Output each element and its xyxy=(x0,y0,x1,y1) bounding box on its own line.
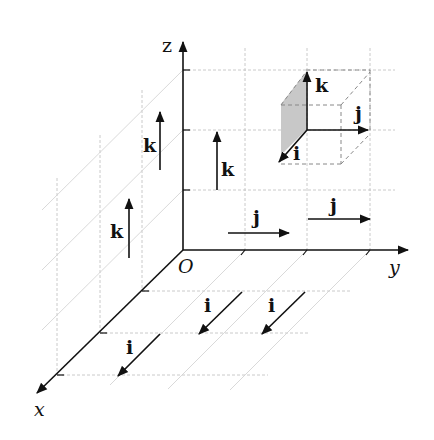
x-axis xyxy=(37,250,183,393)
cube-k-label: k xyxy=(315,76,328,95)
k-label-2: k xyxy=(221,160,234,179)
cube-j-label: j xyxy=(355,104,362,123)
cube-i-label: i xyxy=(293,144,300,163)
origin-label: O xyxy=(178,257,194,276)
y-axis-label: y xyxy=(389,258,400,277)
i-vector-3 xyxy=(118,334,160,376)
diagonal-gridlines xyxy=(42,70,370,390)
gridlines xyxy=(57,48,395,375)
axes-drawing xyxy=(0,0,434,440)
diagram-canvas: z y x O k k k j j i i i k j i xyxy=(0,0,434,440)
i-label-2: i xyxy=(268,296,275,315)
j-label-1: j xyxy=(253,208,260,227)
k-label-1: k xyxy=(143,136,156,155)
x-axis-label: x xyxy=(34,400,45,419)
axis-ticks xyxy=(57,70,370,375)
z-axis-label: z xyxy=(162,36,172,55)
axes xyxy=(37,42,408,393)
i-label-1: i xyxy=(204,296,211,315)
j-label-2: j xyxy=(330,196,337,215)
i-label-3: i xyxy=(126,338,133,357)
k-label-3: k xyxy=(110,222,123,241)
